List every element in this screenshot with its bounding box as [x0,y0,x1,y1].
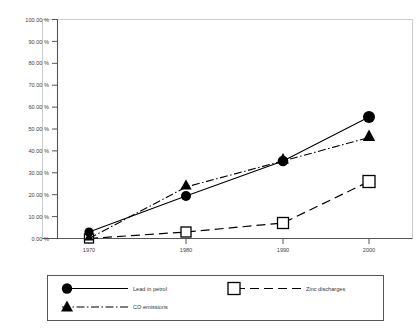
x-tick-label: 1970 [83,247,95,253]
legend-label: CO emissions [133,304,168,310]
data-point-marker [278,218,289,229]
data-point-marker [181,227,191,237]
data-point-marker [84,227,93,236]
filled-circle-icon [62,283,72,293]
data-point-marker [363,176,375,188]
y-tick-label: 80.00 % [28,60,49,66]
y-tick-label: 90.00 % [28,39,49,45]
y-tick-label: 50.00 % [28,126,49,132]
data-point-marker [278,156,289,167]
x-tick-label: 1990 [277,247,289,253]
y-tick-label: 40.00 % [28,148,49,154]
y-tick-label: 0.00 % [32,236,49,242]
x-tick-label: 2000 [363,247,375,253]
y-tick-label: 10.00 % [28,214,49,220]
y-tick-label: 20.00 % [28,192,49,198]
y-tick-label: 60.00 % [28,104,49,110]
legend-frame [48,276,384,321]
x-axis-ticks: 1970 1980 1990 2000 [83,239,375,254]
legend-label: Lead in petrol [133,286,167,292]
data-point-marker [363,111,375,123]
y-tick-label: 70.00 % [28,82,49,88]
chart-legend: Lead in petrol CO emissions Zinc dischar… [48,276,384,321]
x-tick-label: 1980 [180,247,192,253]
legend-label: Zinc discharges [306,286,345,292]
y-tick-label: 100.00 % [25,17,49,23]
open-square-icon [228,283,240,295]
y-tick-label: 30.00 % [28,170,49,176]
data-point-marker [181,191,191,201]
chart-figure: 0.00 % 10.00 % 20.00 % 30.00 % 40.00 % 5… [0,0,420,330]
plot-frame [43,20,413,239]
